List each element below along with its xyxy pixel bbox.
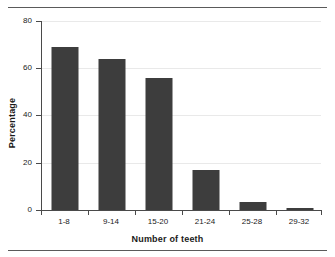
x-tick-label-29-32: 29-32 bbox=[272, 218, 326, 226]
bar-slot-1 bbox=[41, 21, 88, 210]
x-tick-label-21-24: 21-24 bbox=[178, 218, 232, 226]
bar-29-32[interactable] bbox=[286, 208, 313, 210]
x-tick-label-25-28: 25-28 bbox=[225, 218, 279, 226]
y-tick-label-80: 80 bbox=[6, 17, 32, 25]
x-tick-mark-2 bbox=[135, 210, 136, 215]
y-tick-label-0: 0 bbox=[6, 206, 32, 214]
bar-15-20[interactable] bbox=[145, 78, 172, 210]
top-divider-rule bbox=[8, 7, 327, 8]
bar-chart-figure: Percentage 80 60 40 20 0 bbox=[0, 0, 335, 257]
y-axis-title: Percentage bbox=[7, 78, 17, 168]
y-tick-label-20: 20 bbox=[6, 159, 32, 167]
bottom-divider-rule bbox=[8, 250, 327, 251]
x-tick-mark-6 bbox=[321, 210, 322, 215]
x-tick-mark-0 bbox=[41, 210, 42, 215]
bar-slot-5 bbox=[229, 21, 276, 210]
bar-25-28[interactable] bbox=[239, 202, 266, 210]
bar-21-24[interactable] bbox=[192, 170, 219, 210]
bar-slot-3 bbox=[135, 21, 182, 210]
bar-1-8[interactable] bbox=[51, 47, 78, 210]
y-tick-label-60: 60 bbox=[6, 64, 32, 72]
x-axis-title: Number of teeth bbox=[0, 234, 335, 244]
x-tick-label-15-20: 15-20 bbox=[131, 218, 185, 226]
x-tick-mark-1 bbox=[88, 210, 89, 215]
bar-9-14[interactable] bbox=[98, 59, 125, 210]
bar-slot-6 bbox=[276, 21, 323, 210]
x-tick-mark-3 bbox=[182, 210, 183, 215]
x-tick-label-9-14: 9-14 bbox=[84, 218, 138, 226]
y-tick-label-40: 40 bbox=[6, 111, 32, 119]
bar-slot-4 bbox=[182, 21, 229, 210]
bar-slot-2 bbox=[88, 21, 135, 210]
x-tick-mark-4 bbox=[229, 210, 230, 215]
bar-series bbox=[41, 21, 321, 210]
x-tick-label-1-8: 1-8 bbox=[37, 218, 91, 226]
x-tick-mark-5 bbox=[276, 210, 277, 215]
